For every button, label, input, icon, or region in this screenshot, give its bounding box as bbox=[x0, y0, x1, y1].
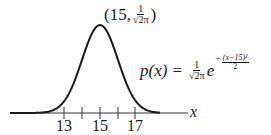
bell-curve bbox=[10, 25, 160, 113]
tick-label-17: 17 bbox=[127, 118, 143, 134]
tick-label-15: 15 bbox=[92, 118, 108, 134]
peak-label: (15, 1 √2π ) bbox=[104, 4, 156, 25]
formula-coef-den: √2π bbox=[188, 71, 206, 81]
formula-exp-sign: − bbox=[215, 54, 221, 64]
formula-lhs: p(x) = bbox=[140, 62, 183, 79]
peak-fraction-den: √2π bbox=[132, 15, 150, 25]
formula-base: e bbox=[207, 62, 215, 79]
peak-fraction: 1 √2π bbox=[132, 4, 150, 25]
formula-exp-den: 2 bbox=[232, 63, 238, 71]
formula-exp-fraction: (x−15)² 2 bbox=[222, 54, 249, 71]
peak-label-close: ) bbox=[150, 6, 156, 23]
x-axis-label: x bbox=[190, 104, 197, 120]
formula-coefficient: 1 √2π bbox=[188, 60, 206, 81]
tick-label-13: 13 bbox=[56, 118, 72, 134]
density-formula: p(x) = 1 √2π e − (x−15)² 2 bbox=[140, 60, 250, 81]
peak-label-open: (15, bbox=[104, 6, 131, 23]
formula-exponent: − (x−15)² 2 bbox=[215, 54, 249, 71]
